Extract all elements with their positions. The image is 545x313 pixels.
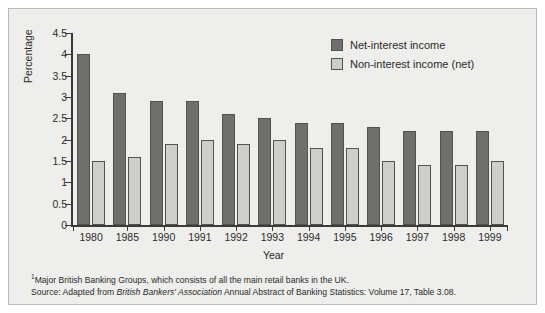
chart-figure: Percentage 00.511.522.533.544.5 19801985…	[8, 8, 537, 305]
y-axis-tick-label: 3.5	[52, 68, 67, 84]
bar-group	[291, 33, 327, 225]
bar	[128, 157, 141, 225]
bar	[295, 123, 308, 225]
bar-group	[218, 33, 254, 225]
bar	[331, 123, 344, 225]
x-axis-tick-label: 1995	[327, 231, 363, 243]
bar	[491, 161, 504, 225]
source-publication: British Bankers' Association	[117, 287, 222, 297]
bar	[476, 131, 489, 225]
bar	[258, 118, 271, 225]
y-axis-tick-label: 1	[61, 174, 67, 190]
bar-group	[472, 33, 508, 225]
x-axis-tick-label: 1997	[399, 231, 435, 243]
bar-group	[254, 33, 290, 225]
bar	[403, 131, 416, 225]
bar	[440, 131, 453, 225]
bar	[346, 148, 359, 225]
legend-item-label: Net-interest income	[350, 39, 445, 51]
bar	[273, 140, 286, 225]
y-axis-tick-label: 4.5	[52, 25, 67, 41]
source-suffix: Annual Abstract of Banking Statistics: V…	[222, 287, 456, 297]
y-axis-tick-label: 0	[61, 217, 67, 233]
y-axis-tick-label: 3	[61, 89, 67, 105]
legend-item-label: Non-interest income (net)	[350, 58, 474, 70]
x-axis-tick-label: 1990	[146, 231, 182, 243]
legend-swatch-icon	[331, 58, 343, 70]
y-axis-title: Percentage	[22, 29, 34, 83]
source-prefix: Source: Adapted from	[31, 287, 117, 297]
x-axis-tick-label: 1994	[291, 231, 327, 243]
y-axis-tick-label: 0.5	[52, 196, 67, 212]
footnote-line-2: Source: Adapted from British Bankers' As…	[31, 286, 526, 298]
footnote-line-1: 1Major British Banking Groups, which con…	[31, 271, 526, 286]
legend-swatch-icon	[331, 39, 343, 51]
y-axis-tick-label: 4	[61, 46, 67, 62]
bar	[165, 144, 178, 225]
bar	[310, 148, 323, 225]
bar	[237, 144, 250, 225]
x-axis-tick-label: 1993	[254, 231, 290, 243]
x-axis-tick-label: 1980	[73, 231, 109, 243]
bar-group	[182, 33, 218, 225]
bar	[418, 165, 431, 225]
footnotes: 1Major British Banking Groups, which con…	[31, 271, 526, 298]
y-axis-tick-label: 2	[61, 132, 67, 148]
x-axis-tick-label: 1996	[363, 231, 399, 243]
bar-group	[109, 33, 145, 225]
x-axis-tick-label: 1991	[182, 231, 218, 243]
x-axis-tick-label: 1985	[109, 231, 145, 243]
x-axis-tick-label: 1999	[472, 231, 508, 243]
bar	[222, 114, 235, 225]
legend-item-net-interest-income: Net-interest income	[331, 35, 474, 54]
bar	[367, 127, 380, 225]
bar-group	[146, 33, 182, 225]
bar	[92, 161, 105, 225]
bar	[150, 101, 163, 225]
bar	[382, 161, 395, 225]
bar	[455, 165, 468, 225]
bar	[186, 101, 199, 225]
x-axis-tick-label: 1992	[218, 231, 254, 243]
x-axis-labels: 1980198519901991199219931994199519961997…	[73, 231, 508, 243]
x-axis-title: Year	[9, 249, 538, 261]
legend-item-non-interest-income: Non-interest income (net)	[331, 54, 474, 73]
x-axis-line	[71, 225, 508, 227]
x-axis-tick-label: 1998	[436, 231, 472, 243]
y-axis-tick-label: 1.5	[52, 153, 67, 169]
bar	[201, 140, 214, 225]
chart-legend: Net-interest income Non-interest income …	[331, 35, 474, 73]
bar	[113, 93, 126, 225]
y-axis-tick-label: 2.5	[52, 110, 67, 126]
bar	[77, 54, 90, 225]
footnote-text: Major British Banking Groups, which cons…	[35, 275, 349, 285]
bar-group	[73, 33, 109, 225]
